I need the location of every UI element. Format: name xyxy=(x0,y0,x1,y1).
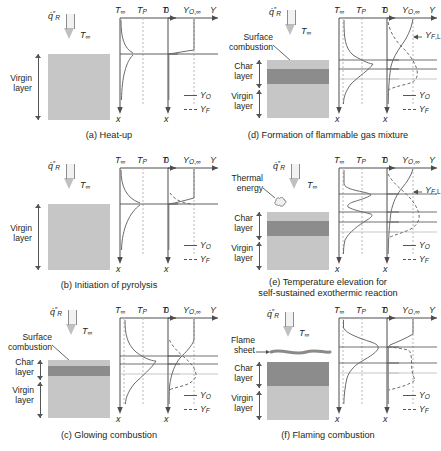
flux-label: q̇″R xyxy=(48,160,60,171)
x-axis-label: x xyxy=(335,414,340,424)
panel-f-species-plot: 0 YO,∞ Y x YO YF xyxy=(377,300,439,425)
panel-a: q̇″R T∞ Virginlayer T∞ TP T x 0 xyxy=(0,0,218,150)
x-axis-label: x xyxy=(383,414,388,424)
t-p-axis-label: TP xyxy=(137,305,147,315)
material-block xyxy=(48,54,110,120)
char-layer-block xyxy=(48,366,110,376)
y-o-inf-axis-label: YO,∞ xyxy=(183,155,201,165)
legend-y-f: YF xyxy=(403,254,429,264)
legend-y-f: YF xyxy=(184,254,210,264)
legend-y-f: YF xyxy=(403,404,429,414)
radiant-flux-arrow xyxy=(64,14,75,40)
y-axis-label: Y xyxy=(210,155,216,165)
x-axis-label: x xyxy=(164,264,169,274)
legend-y-o: YO xyxy=(403,390,430,400)
char-layer-label: Charlayer xyxy=(219,364,253,383)
legend-y-f: YF xyxy=(184,104,210,114)
material-block xyxy=(48,360,110,418)
y-fl-annotation: YF,L xyxy=(425,30,441,40)
virgin-layer-block xyxy=(48,204,110,270)
y-axis-label: Y xyxy=(210,5,216,15)
panel-c-species-plot: 0 YO,∞ Y x YO YF xyxy=(158,300,220,425)
y-o-inf-axis-label: YO,∞ xyxy=(402,305,420,315)
virgin-layer-label: Virginlayer xyxy=(0,74,32,93)
ambient-temperature-label: T∞ xyxy=(80,30,90,40)
t-inf-axis-label: T∞ xyxy=(334,305,344,315)
x-axis-label: x xyxy=(116,414,121,424)
radiant-flux-arrow xyxy=(66,310,77,336)
virgin-layer-label: Virginlayer xyxy=(0,224,32,243)
y-o-inf-axis-label: YO,∞ xyxy=(402,155,420,165)
panel-f: q̇″R T∞ Flamesheet Charlayer Virginlayer… xyxy=(219,300,437,450)
legend-y-o: YO xyxy=(184,240,211,250)
flux-label: q̇″R xyxy=(269,6,281,17)
radiant-flux-arrow xyxy=(285,10,296,36)
char-layer-extent-arrow xyxy=(36,360,45,380)
ambient-temperature-label: T∞ xyxy=(301,26,311,36)
zero-axis-label: 0 xyxy=(164,305,169,315)
panel-b-species-plot: 0 YO,∞ Y x YO YF xyxy=(158,150,220,275)
surface-combustion-label: Surfacecombustion xyxy=(221,33,273,52)
flame-sheet-label: Flamesheet xyxy=(219,336,255,355)
flame-sheet-icon xyxy=(256,347,332,359)
y-o-inf-axis-label: YO,∞ xyxy=(402,5,420,15)
t-inf-axis-label: T∞ xyxy=(115,305,125,315)
char-layer-block xyxy=(267,221,329,236)
char-layer-block xyxy=(267,69,329,84)
panel-c: q̇″R T∞ Surfacecombustion Charlayer Virg… xyxy=(0,300,218,450)
zero-axis-label: 0 xyxy=(164,5,169,15)
virgin-layer-label: Virginlayer xyxy=(219,244,253,263)
t-p-axis-label: TP xyxy=(137,5,147,15)
zero-axis-label: 0 xyxy=(383,305,388,315)
char-layer-extent-arrow xyxy=(255,60,264,88)
panel-e-caption-line-1: (e) Temperature elevation for xyxy=(269,277,387,287)
char-layer-label: Charlayer xyxy=(219,214,253,233)
virgin-layer-label: Virginlayer xyxy=(0,386,34,405)
x-axis-label: x xyxy=(164,114,169,124)
flux-label: q̇″R xyxy=(48,10,60,21)
t-inf-axis-label: T∞ xyxy=(334,155,344,165)
x-axis-label: x xyxy=(164,414,169,424)
legend-y-o: YO xyxy=(184,390,211,400)
y-axis-label: Y xyxy=(429,5,435,15)
ambient-temperature-label: T∞ xyxy=(82,326,92,336)
y-axis-label: Y xyxy=(210,305,216,315)
panel-b: q̇″R T∞ Virginlayer T∞ TP T x 0 YO,∞ xyxy=(0,150,218,300)
thermal-energy-burst-icon xyxy=(263,186,293,212)
material-block xyxy=(267,212,329,270)
ambient-temperature-label: T∞ xyxy=(307,180,317,190)
x-axis-label: x xyxy=(116,264,121,274)
material-block xyxy=(48,204,110,270)
panel-d-caption: (d) Formation of flammable gas mixture xyxy=(219,130,437,141)
zero-axis-label: 0 xyxy=(164,155,169,165)
virgin-layer-block xyxy=(48,54,110,120)
panel-c-caption: (c) Glowing combustion xyxy=(0,430,218,441)
legend-y-o: YO xyxy=(403,90,430,100)
virgin-layer-extent-arrow xyxy=(34,54,43,120)
material-block xyxy=(267,60,329,118)
panel-f-caption: (f) Flaming combustion xyxy=(219,430,437,441)
radiant-flux-arrow xyxy=(283,312,294,338)
panel-d-species-plot: 0 YO,∞ Y YF,L x YO YF xyxy=(377,0,439,125)
y-fl-annotation: YF,L xyxy=(425,185,441,195)
radiant-flux-arrow xyxy=(64,164,75,190)
surface-combustion-label: Surfacecombustion xyxy=(2,333,52,352)
panel-b-caption: (b) Initiation of pyrolysis xyxy=(0,280,218,291)
flux-label: q̇″R xyxy=(267,308,279,319)
x-axis-label: x xyxy=(116,114,121,124)
y-axis-label: Y xyxy=(429,155,435,165)
virgin-layer-extent-arrow xyxy=(255,242,264,270)
t-p-axis-label: TP xyxy=(356,5,366,15)
t-p-axis-label: TP xyxy=(137,155,147,165)
t-p-axis-label: TP xyxy=(356,305,366,315)
virgin-layer-extent-arrow xyxy=(34,204,43,270)
panel-e-species-plot: 0 YO,∞ Y YF,L x YO YF xyxy=(377,150,439,275)
virgin-layer-label: Virginlayer xyxy=(219,92,253,111)
y-o-inf-axis-label: YO,∞ xyxy=(183,305,201,315)
panel-e-caption-line-2: self-sustained exothermic reaction xyxy=(258,288,397,298)
zero-axis-label: 0 xyxy=(383,155,388,165)
panel-a-caption: (a) Heat-up xyxy=(0,130,218,141)
char-layer-label: Charlayer xyxy=(0,358,34,377)
virgin-layer-label: Virginlayer xyxy=(219,394,253,413)
x-axis-label: x xyxy=(383,264,388,274)
